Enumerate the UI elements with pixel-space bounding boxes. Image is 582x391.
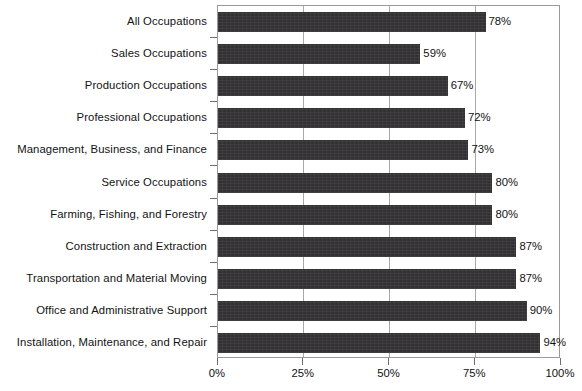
category-label: All Occupations bbox=[0, 15, 207, 27]
bar bbox=[218, 44, 420, 64]
y-axis-tick bbox=[210, 101, 217, 102]
x-axis-tick bbox=[217, 358, 218, 365]
category-label: Office and Administrative Support bbox=[0, 304, 207, 316]
bar bbox=[218, 237, 516, 257]
bar bbox=[218, 269, 516, 289]
category-label: Service Occupations bbox=[0, 176, 207, 188]
bar bbox=[218, 205, 492, 225]
y-axis-tick bbox=[210, 37, 217, 38]
category-label: Management, Business, and Finance bbox=[0, 143, 207, 155]
y-axis-tick bbox=[210, 133, 217, 134]
x-axis-tick bbox=[302, 358, 303, 365]
bar-value-label: 94% bbox=[543, 336, 566, 348]
x-axis-tick-label: 25% bbox=[291, 367, 314, 380]
category-label: Farming, Fishing, and Forestry bbox=[0, 208, 207, 220]
category-axis: All OccupationsSales OccupationsProducti… bbox=[0, 5, 212, 358]
category-label: Sales Occupations bbox=[0, 47, 207, 59]
x-axis-tick bbox=[474, 358, 475, 365]
category-label: Professional Occupations bbox=[0, 111, 207, 123]
bar bbox=[218, 76, 448, 96]
bar-value-label: 73% bbox=[471, 143, 494, 155]
category-label: Transportation and Material Moving bbox=[0, 272, 207, 284]
bar bbox=[218, 173, 492, 193]
category-label: Installation, Maintenance, and Repair bbox=[0, 336, 207, 348]
bar bbox=[218, 108, 465, 128]
y-axis-tick bbox=[210, 326, 217, 327]
bar bbox=[218, 140, 468, 160]
bar bbox=[218, 333, 540, 353]
category-label: Construction and Extraction bbox=[0, 240, 207, 252]
y-axis-tick bbox=[210, 69, 217, 70]
bar-value-label: 78% bbox=[489, 15, 512, 27]
bar-value-label: 72% bbox=[468, 111, 491, 123]
y-axis-tick bbox=[210, 262, 217, 263]
category-label: Production Occupations bbox=[0, 79, 207, 91]
x-axis-tick-label: 75% bbox=[463, 367, 486, 380]
y-axis-tick bbox=[210, 165, 217, 166]
x-axis-tick-label: 50% bbox=[377, 367, 400, 380]
bar-value-label: 87% bbox=[519, 272, 542, 284]
bar-value-label: 87% bbox=[519, 240, 542, 252]
bar-value-label: 80% bbox=[495, 176, 518, 188]
bar-value-label: 80% bbox=[495, 208, 518, 220]
x-axis-tick-label: 100% bbox=[546, 367, 575, 380]
x-axis-tick bbox=[560, 358, 561, 365]
bar-value-label: 59% bbox=[423, 47, 446, 59]
bar bbox=[218, 301, 527, 321]
x-axis-tick bbox=[388, 358, 389, 365]
y-axis-tick bbox=[210, 230, 217, 231]
bar-chart: All OccupationsSales OccupationsProducti… bbox=[0, 0, 582, 391]
bar-value-label: 90% bbox=[530, 304, 553, 316]
bar bbox=[218, 12, 486, 32]
y-axis-tick bbox=[210, 198, 217, 199]
y-axis-tick bbox=[210, 294, 217, 295]
bar-value-label: 67% bbox=[451, 79, 474, 91]
x-axis-tick-label: 0% bbox=[209, 367, 225, 380]
